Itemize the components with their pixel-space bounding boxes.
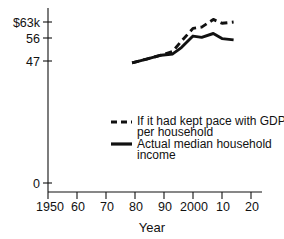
y-tick-label-56: 56 — [26, 32, 40, 46]
x-tick-label-2020: 20 — [245, 200, 259, 214]
x-tick-label-2010: 10 — [216, 200, 230, 214]
y-tick-label-0: 0 — [33, 177, 40, 191]
series-line-gdp-pace — [132, 19, 234, 62]
y-axis-labels: $63k 56 47 0 — [13, 16, 41, 191]
x-tick-label-1990: 90 — [158, 200, 172, 214]
x-tick-label-1980: 80 — [129, 200, 143, 214]
line-chart: $63k 56 47 0 1950 60 70 80 90 2000 10 20 — [0, 0, 284, 239]
x-axis-title: Year — [139, 220, 166, 235]
chart-legend: If it had kept pace with GDP per househo… — [111, 114, 284, 162]
x-tick-label-1970: 70 — [100, 200, 114, 214]
x-tick-label-2000: 2000 — [180, 200, 208, 214]
legend-label-actual-line2: income — [137, 148, 176, 162]
x-tick-label-1960: 60 — [71, 200, 85, 214]
x-axis-labels: 1950 60 70 80 90 2000 10 20 — [36, 200, 259, 214]
x-axis-ticks — [48, 192, 251, 199]
y-tick-label-47: 47 — [26, 55, 40, 69]
y-tick-label-63: $63k — [13, 16, 41, 30]
chart-container: $63k 56 47 0 1950 60 70 80 90 2000 10 20 — [0, 0, 284, 239]
x-tick-label-1950: 1950 — [36, 200, 64, 214]
